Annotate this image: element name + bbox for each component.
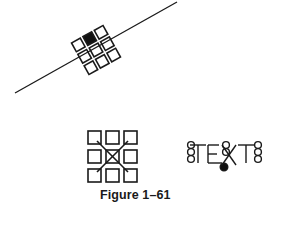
grip-circle xyxy=(255,142,262,149)
grid-square xyxy=(124,150,137,163)
grid-square xyxy=(72,38,86,52)
grid-square-selected xyxy=(83,32,97,46)
grid-with-x-panel xyxy=(88,131,137,182)
grid-square xyxy=(106,131,119,144)
grid-square xyxy=(88,150,101,163)
grip-circle xyxy=(255,149,262,156)
grip-circle-selected xyxy=(220,163,228,171)
grid-square xyxy=(96,55,110,69)
grid-square xyxy=(106,169,119,182)
grid-square xyxy=(84,61,98,75)
grid-square xyxy=(107,48,121,62)
grip-circle xyxy=(188,149,195,156)
grip-circle xyxy=(188,156,195,163)
diagonal-line xyxy=(15,2,177,93)
text-with-grips-panel xyxy=(188,142,262,171)
figure-caption: Figure 1–61 xyxy=(100,188,171,202)
grip-circle xyxy=(255,156,262,163)
grid-square xyxy=(94,26,108,40)
rotated-grid-panel xyxy=(15,2,177,93)
